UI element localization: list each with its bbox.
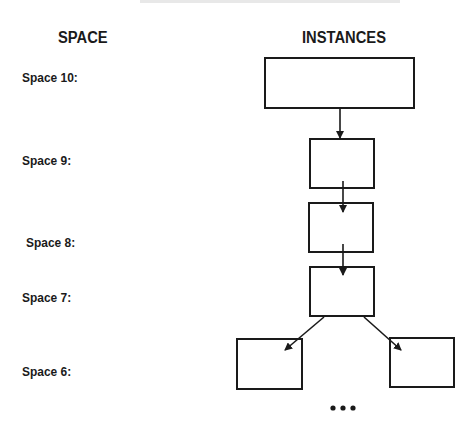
continuation-ellipsis bbox=[330, 405, 355, 410]
arrow-7-to-6-right bbox=[364, 317, 401, 350]
connector-arrows bbox=[0, 0, 472, 429]
arrow-7-to-6-left bbox=[285, 317, 324, 350]
